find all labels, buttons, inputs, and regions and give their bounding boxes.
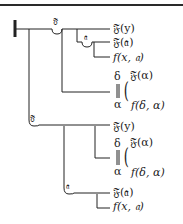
leaf-f-x-a: f(x, 𝔞) bbox=[113, 52, 144, 63]
leaf-F-a-lower: 𝔉(𝔞) bbox=[113, 187, 134, 198]
bracket-symbol-lower: ( bbox=[124, 146, 129, 168]
leaf-F-y-lower: 𝔉(y) bbox=[113, 121, 135, 132]
concavity-label-lower: 𝔉 bbox=[30, 115, 35, 123]
alpha-symbol: α bbox=[114, 99, 121, 110]
bracket-symbol: ( bbox=[124, 80, 129, 102]
leaf-F-alpha-lower: 𝔉(α) bbox=[130, 137, 153, 148]
delta-symbol: δ bbox=[114, 71, 121, 82]
leaf-f-delta-alpha-lower: f(δ, α) bbox=[131, 167, 165, 178]
concavity-label-top-inner: 𝔞 bbox=[84, 34, 87, 42]
concavity-label-top: 𝔉 bbox=[53, 18, 58, 26]
leaf-F-y: 𝔉(y) bbox=[113, 23, 135, 34]
delta-symbol-lower: δ bbox=[114, 138, 121, 149]
begriffsschrift-lines bbox=[0, 0, 183, 224]
leaf-F-a: 𝔉(𝔞) bbox=[113, 37, 134, 48]
leaf-f-delta-alpha: f(δ, α) bbox=[131, 100, 165, 111]
leaf-f-x-a-lower: f(x, 𝔞) bbox=[113, 201, 144, 212]
alpha-symbol-lower: α bbox=[114, 166, 121, 177]
concavity-label-lower-inner: 𝔞 bbox=[66, 183, 69, 191]
leaf-F-alpha: 𝔉(α) bbox=[130, 70, 153, 81]
